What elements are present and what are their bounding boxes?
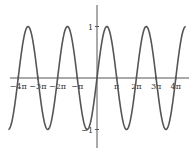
- y-tick-label: 1: [88, 23, 93, 32]
- sine-chart: −4π−3π−2π−ππ2π3π4π1−1: [0, 0, 195, 151]
